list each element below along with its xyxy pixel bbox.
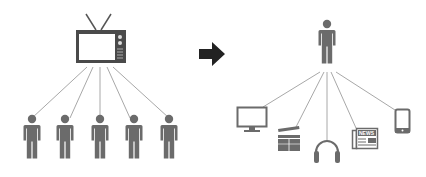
newspaper-icon: NEWS bbox=[353, 129, 378, 149]
audience-group bbox=[24, 115, 178, 159]
newspaper-label: NEWS bbox=[359, 130, 375, 136]
person-icon bbox=[92, 115, 109, 159]
mobile-phone-icon bbox=[395, 110, 410, 134]
person-icon bbox=[319, 20, 336, 64]
person-icon bbox=[161, 115, 178, 159]
person-icon bbox=[24, 115, 41, 159]
person-icon bbox=[57, 115, 74, 159]
right-arrow-icon bbox=[199, 42, 225, 66]
television-icon bbox=[76, 14, 126, 63]
person-icon bbox=[126, 115, 143, 159]
clapperboard-icon bbox=[278, 126, 300, 151]
broadcast-lines bbox=[32, 67, 169, 118]
computer-monitor-icon bbox=[238, 108, 267, 133]
diagram: NEWS bbox=[0, 0, 426, 177]
headphones-icon bbox=[314, 141, 340, 163]
